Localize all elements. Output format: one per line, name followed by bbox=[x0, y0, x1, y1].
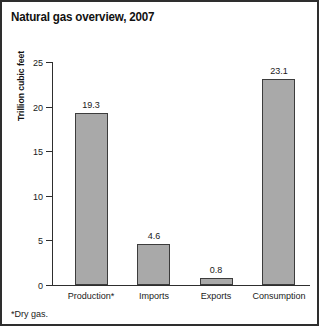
chart-figure: Natural gas overview, 2007 Trillion cubi… bbox=[0, 0, 319, 326]
x-axis-category-label: Consumption bbox=[241, 290, 317, 301]
y-axis-tick bbox=[46, 285, 52, 286]
bar bbox=[137, 244, 170, 285]
y-axis-tick bbox=[46, 240, 52, 241]
y-axis-tick-label: 0 bbox=[15, 280, 44, 291]
y-axis-tick bbox=[46, 107, 52, 108]
y-axis-tick-label: 10 bbox=[15, 190, 44, 201]
y-axis-line bbox=[52, 62, 53, 285]
chart-footnote: *Dry gas. bbox=[11, 308, 48, 319]
y-axis-tick-label: 25 bbox=[15, 57, 44, 68]
bar-value-label: 0.8 bbox=[193, 264, 241, 275]
bar bbox=[200, 278, 233, 285]
y-axis-tick bbox=[46, 151, 52, 152]
x-axis-line bbox=[52, 285, 310, 286]
bar-value-label: 19.3 bbox=[68, 99, 116, 110]
page-title: Natural gas overview, 2007 bbox=[11, 10, 154, 24]
bar bbox=[262, 79, 295, 285]
bar-value-label: 23.1 bbox=[255, 65, 303, 76]
y-axis-tick-label: 20 bbox=[15, 101, 44, 112]
y-axis-tick-label: 5 bbox=[15, 235, 44, 246]
y-axis-tick-label: 15 bbox=[15, 146, 44, 157]
y-axis-tick bbox=[46, 196, 52, 197]
plot-area: 0510152025 19.3Production*4.6Imports0.8E… bbox=[52, 62, 310, 285]
bar-value-label: 4.6 bbox=[130, 230, 178, 241]
bar bbox=[75, 113, 108, 285]
y-axis-tick bbox=[46, 62, 52, 63]
